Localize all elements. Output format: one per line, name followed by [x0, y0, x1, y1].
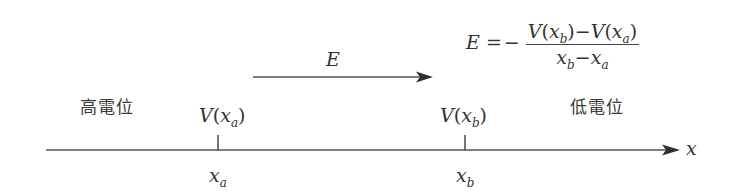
formula-equals: =: [486, 31, 502, 53]
num-term1-var: V: [528, 20, 542, 42]
x-axis-label: x: [686, 137, 697, 159]
paren-close: ): [480, 104, 487, 126]
field-label: E: [326, 48, 340, 70]
formula-fraction: V(xb)−V(xa)xb−xa: [526, 20, 639, 68]
num-term1-sub: b: [560, 32, 568, 46]
x-axis-label-text: x: [686, 137, 697, 159]
num-term1-arg: x: [549, 20, 560, 42]
position-label-b: xb: [456, 164, 474, 186]
den-term1: x: [556, 46, 567, 68]
position-var: x: [456, 164, 467, 186]
position-label-a: xa: [209, 164, 227, 186]
high-potential-label: 高電位: [80, 93, 134, 118]
den-term2-sub: a: [601, 58, 608, 72]
formula-lhs: E: [466, 31, 480, 53]
den-term1-sub: b: [567, 58, 575, 72]
position-var: x: [209, 164, 220, 186]
paren-close: ): [238, 104, 245, 126]
position-var: x: [461, 104, 472, 126]
potential-var: V: [199, 104, 213, 126]
formula-sign: −: [504, 31, 520, 53]
formula-numerator: V(xb)−V(xa): [526, 20, 639, 45]
position-var: x: [220, 104, 231, 126]
den-minus: −: [575, 46, 591, 68]
position-sub: b: [472, 116, 480, 130]
num-minus: −: [575, 20, 591, 42]
field-formula: E =−V(xb)−V(xa)xb−xa: [466, 20, 639, 68]
position-sub: a: [220, 176, 227, 190]
position-sub: b: [467, 176, 475, 190]
num-term2-arg: x: [612, 20, 623, 42]
low-potential-label: 低電位: [570, 93, 624, 118]
potential-label-a: V(xa): [199, 104, 245, 126]
field-label-text: E: [326, 48, 340, 70]
num-term2-var: V: [591, 20, 605, 42]
potential-label-b: V(xb): [440, 104, 487, 126]
position-sub: a: [231, 116, 238, 130]
den-term2: x: [591, 46, 602, 68]
potential-var: V: [440, 104, 454, 126]
num-term2-sub: a: [623, 32, 630, 46]
formula-denominator: xb−xa: [526, 45, 639, 68]
